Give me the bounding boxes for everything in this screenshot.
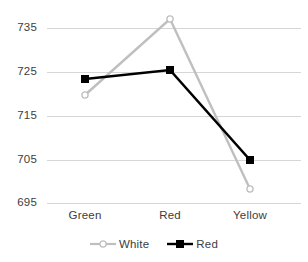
x-axis-labels: Green Red Yellow (47, 209, 301, 227)
series-red-point-yellow (246, 156, 254, 164)
legend-label-red: Red (196, 238, 218, 251)
series-white (82, 16, 253, 192)
series-white-point-red (167, 16, 173, 22)
x-tick-label-yellow: Yellow (233, 209, 267, 222)
series-white-point-green (82, 92, 88, 98)
x-tick-label-green: Green (69, 209, 102, 222)
series-red (81, 66, 254, 164)
series-white-line (85, 19, 250, 189)
legend-item-red[interactable]: Red (167, 238, 218, 251)
x-tick-label-red: Red (159, 209, 181, 222)
legend-item-white[interactable]: White (90, 238, 149, 251)
series-red-point-green (81, 75, 89, 83)
line-chart: 735 725 715 705 695 Green Red Yellow (0, 0, 308, 262)
series-red-point-red (166, 66, 174, 74)
legend-label-white: White (119, 238, 149, 251)
legend-marker-white-icon (90, 238, 116, 250)
series-white-point-yellow (247, 186, 253, 192)
chart-legend: White Red (0, 234, 308, 254)
legend-marker-red-icon (167, 238, 193, 250)
series-red-line (85, 70, 250, 160)
